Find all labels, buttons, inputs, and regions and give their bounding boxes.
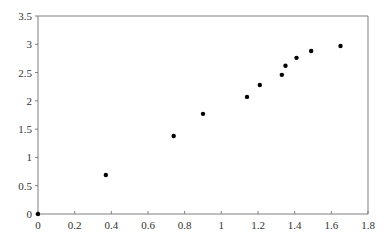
data-point	[171, 134, 175, 138]
data-point	[36, 212, 40, 216]
x-tick-label: 0	[35, 219, 41, 231]
y-tick-label: 2.5	[18, 67, 32, 79]
x-tick-label: 1.8	[361, 219, 375, 231]
data-point	[201, 112, 205, 116]
y-tick-label: 1.5	[18, 123, 32, 135]
y-tick-label: 1	[27, 151, 33, 163]
x-tick-label: 0.8	[178, 219, 192, 231]
data-point	[294, 56, 298, 60]
x-tick-label: 1	[219, 219, 225, 231]
x-tick-label: 0.6	[141, 219, 155, 231]
data-point	[280, 73, 284, 77]
x-tick-label: 1.4	[288, 219, 302, 231]
data-point	[258, 83, 262, 87]
data-point	[104, 173, 108, 177]
y-tick-label: 3.5	[18, 10, 32, 22]
x-tick-label: 1.2	[251, 219, 265, 231]
y-tick-label: 0.5	[18, 180, 32, 192]
y-tick-label: 3	[27, 38, 33, 50]
data-point	[309, 49, 313, 53]
x-tick-label: 0.2	[68, 219, 82, 231]
scatter-chart: 00.20.40.60.811.21.41.61.8 00.511.522.53…	[0, 0, 388, 243]
plot-background	[0, 0, 388, 243]
y-tick-label: 0	[27, 208, 33, 220]
x-tick-label: 1.6	[324, 219, 338, 231]
data-point	[338, 44, 342, 48]
data-point	[245, 95, 249, 99]
x-tick-label: 0.4	[104, 219, 118, 231]
data-point	[283, 64, 287, 68]
y-tick-label: 2	[27, 95, 33, 107]
